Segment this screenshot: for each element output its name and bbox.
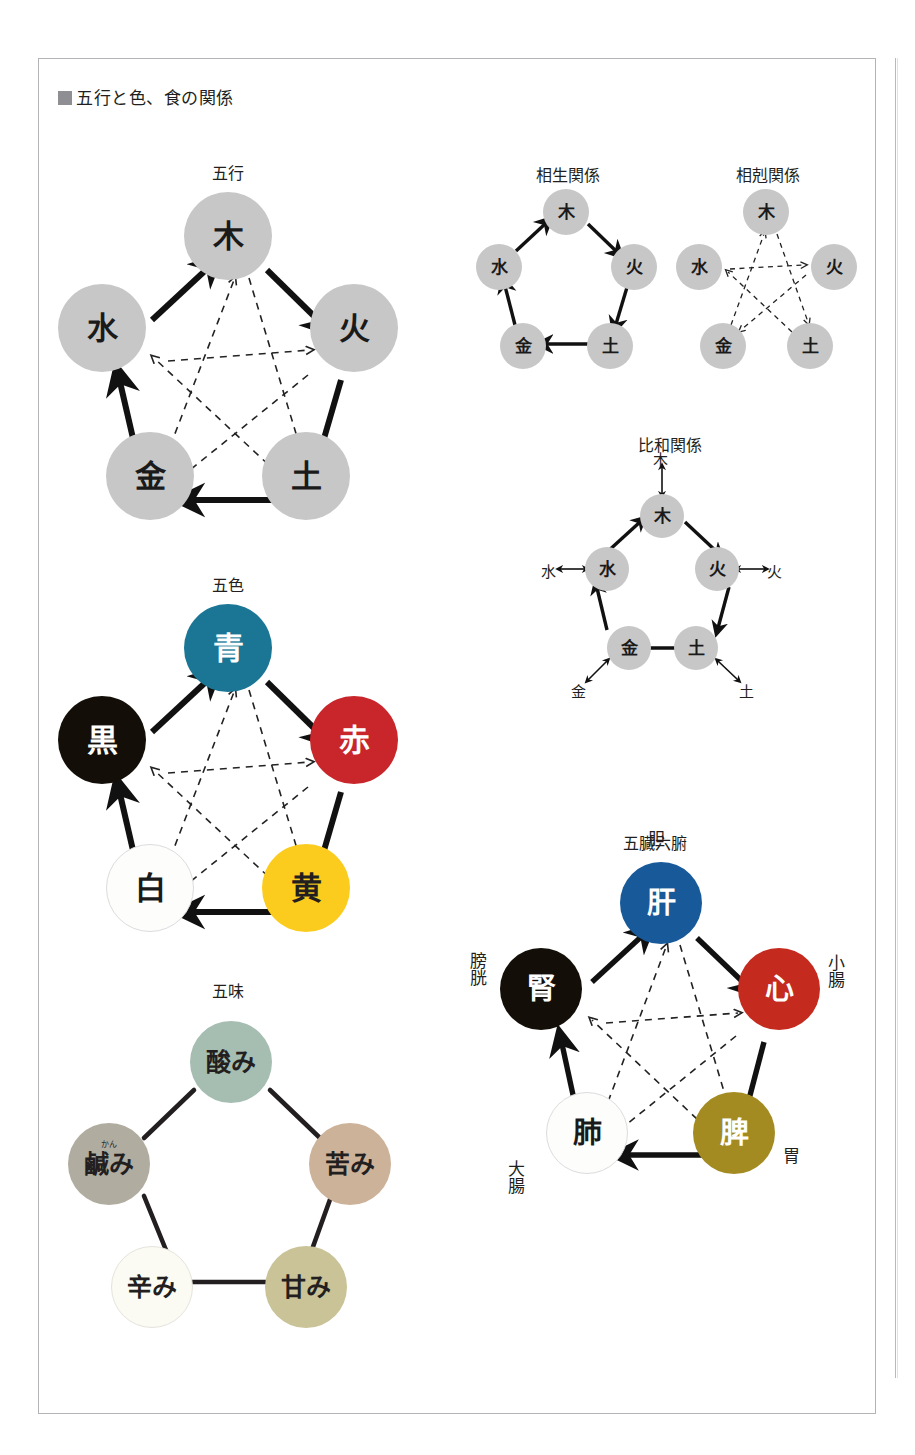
page-gutter-line: [895, 58, 896, 1378]
node-label: 辛み: [127, 1275, 177, 1300]
hiwa-pair-sui: 水: [541, 560, 556, 581]
node-label: 苦み: [325, 1152, 375, 1177]
diagram-gogyo: 五行: [58, 160, 398, 540]
diagram-hiwa: 比和関係: [555, 432, 785, 732]
node-gomi-amami: 甘み: [265, 1246, 347, 1328]
diagram-goshiki: 五色 青 赤 黄 白 黒: [58, 572, 398, 952]
diagram-gozo: 五臓六腑 肝 心 脾 肺 腎 胆 小腸 胃 大腸 膀胱: [500, 830, 830, 1230]
node-label: 白: [135, 873, 166, 904]
node-label: 土: [291, 461, 322, 492]
node-soukoku-do: 土: [787, 323, 833, 369]
node-gogyo-ki: 木: [184, 192, 272, 280]
node-goshiki-kuro: 黒: [58, 696, 146, 784]
outer-label: 胃: [783, 1146, 800, 1166]
gozo-outer-i: 胃: [783, 1148, 800, 1166]
page-title-text: 五行と色、食の関係: [76, 88, 234, 108]
node-hiwa-sui: 水: [585, 547, 629, 591]
node-label: 肺: [573, 1119, 602, 1148]
pair-label: 木: [653, 451, 668, 469]
kan-ruby-wrap: かん鹹み: [84, 1152, 134, 1177]
diagram-gomi: 五味 酸み 苦み 甘み 辛み かん鹹み: [58, 978, 398, 1318]
node-gomi-nigami: 苦み: [309, 1123, 391, 1205]
node-hiwa-ka: 火: [695, 547, 739, 591]
node-gomi-karami: 辛み: [111, 1246, 193, 1328]
node-label: 赤: [339, 725, 370, 756]
node-label: 肝: [647, 889, 676, 918]
node-label: 水: [691, 259, 708, 276]
node-label: 黄: [291, 873, 322, 904]
node-label: 金: [515, 338, 532, 355]
node-gogyo-sui: 水: [58, 284, 146, 372]
outer-label: 大腸: [506, 1160, 526, 1194]
node-hiwa-do: 土: [674, 626, 718, 670]
pair-label: 水: [541, 563, 556, 581]
node-gozo-jin: 腎: [500, 948, 582, 1030]
node-label: 火: [826, 259, 843, 276]
node-sousei-ki: 木: [543, 189, 589, 235]
diagram-sousei: 相生関係 木 火 土 金 水: [473, 162, 663, 362]
node-label: 水: [491, 259, 508, 276]
page-root: 五行と色、食の関係 五行: [0, 0, 915, 1455]
node-label: 脾: [720, 1119, 749, 1148]
node-hiwa-ki: 木: [640, 494, 684, 538]
node-soukoku-sui: 水: [676, 244, 722, 290]
node-hiwa-kin: 金: [607, 626, 651, 670]
hiwa-pair-ki: 木: [653, 448, 668, 469]
pair-label: 金: [571, 683, 586, 701]
node-gozo-hi: 脾: [693, 1092, 775, 1174]
node-label: 木: [558, 204, 575, 221]
node-label: 鹹み: [84, 1150, 134, 1179]
outer-label: 胆: [648, 829, 665, 849]
node-label: 金: [715, 338, 732, 355]
node-gozo-shin: 心: [738, 948, 820, 1030]
node-label: 木: [758, 204, 775, 221]
node-label: 金: [135, 461, 166, 492]
outer-label: 小腸: [826, 954, 846, 988]
node-goshiki-ao: 青: [184, 604, 272, 692]
node-sousei-sui: 水: [476, 244, 522, 290]
bullet-square-icon: [58, 91, 72, 105]
hiwa-pair-kin: 金: [571, 680, 586, 701]
node-label: 酸み: [206, 1050, 256, 1075]
node-label: 木: [654, 508, 671, 525]
node-label: 火: [626, 259, 643, 276]
node-gogyo-do: 土: [262, 432, 350, 520]
node-gomi-san: 酸み: [190, 1021, 272, 1103]
node-label: 心: [765, 975, 794, 1004]
node-gogyo-kin: 金: [106, 432, 194, 520]
node-label: 黒: [87, 725, 118, 756]
node-label: 腎: [527, 975, 556, 1004]
node-label: 青: [213, 633, 244, 664]
node-label: 土: [688, 640, 705, 657]
node-label: 火: [709, 561, 726, 578]
node-sousei-do: 土: [587, 323, 633, 369]
node-sousei-kin: 金: [500, 323, 546, 369]
node-goshiki-ki: 黄: [262, 844, 350, 932]
node-sousei-ka: 火: [611, 244, 657, 290]
node-label: 土: [602, 338, 619, 355]
page-title: 五行と色、食の関係: [58, 84, 234, 109]
node-label: 甘み: [281, 1275, 331, 1300]
gozo-outer-daicho: 大腸: [506, 1160, 524, 1194]
diagram-soukoku: 相剋関係 木 火 土 金 水: [673, 162, 863, 362]
kan-ruby: かん: [84, 1141, 134, 1149]
node-label: 土: [802, 338, 819, 355]
node-soukoku-ka: 火: [811, 244, 857, 290]
gozo-outer-tan: 胆: [648, 831, 665, 849]
node-gozo-kan: 肝: [620, 862, 702, 944]
pair-label: 火: [767, 563, 782, 581]
pair-label: 土: [739, 683, 754, 701]
node-gogyo-ka: 火: [310, 284, 398, 372]
gozo-outer-boko: 膀胱: [468, 952, 486, 986]
node-label: 金: [621, 640, 638, 657]
hiwa-pair-do: 土: [739, 680, 754, 701]
node-label: 木: [213, 221, 244, 252]
outer-label: 膀胱: [468, 952, 488, 986]
node-gomi-kan: かん鹹み: [68, 1123, 150, 1205]
node-goshiki-shiro: 白: [106, 844, 194, 932]
page-gutter-line-2: [897, 58, 898, 1378]
node-soukoku-ki: 木: [743, 189, 789, 235]
hiwa-pair-ka: 火: [767, 560, 782, 581]
node-soukoku-kin: 金: [700, 323, 746, 369]
node-gozo-hai: 肺: [546, 1092, 628, 1174]
